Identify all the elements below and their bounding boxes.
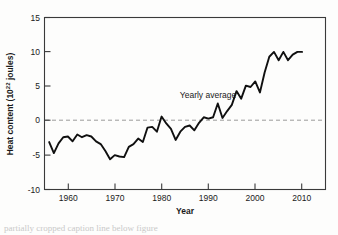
y-tick-label-5: 5 bbox=[35, 81, 40, 91]
y-tick-label-10: 10 bbox=[31, 47, 41, 57]
x-axis-title: Year bbox=[176, 206, 195, 216]
y-axis-tick-labels: -10 -5 0 5 10 15 bbox=[28, 13, 41, 195]
x-tick-label-1960: 1960 bbox=[59, 193, 78, 203]
y-axis-title-suffix: joules) bbox=[5, 53, 15, 83]
y-axis-title: Heat content (1022 joules) bbox=[5, 53, 15, 156]
x-tick-label-1970: 1970 bbox=[106, 193, 125, 203]
y-tick-label-minus5: -5 bbox=[32, 150, 40, 160]
y-tick-label-15: 15 bbox=[31, 13, 41, 23]
figure-container: -10 -5 0 5 10 15 1960 1970 1980 1990 200… bbox=[0, 0, 338, 235]
y-axis-title-prefix: Heat content (10 bbox=[5, 89, 15, 155]
annotation-yearly-average: Yearly average bbox=[180, 90, 237, 100]
ocean-heat-content-chart: -10 -5 0 5 10 15 1960 1970 1980 1990 200… bbox=[0, 0, 338, 235]
svg-text:Heat content (1022 joules): Heat content (1022 joules) bbox=[5, 53, 15, 156]
x-axis-tick-labels: 1960 1970 1980 1990 2000 2010 bbox=[59, 193, 312, 203]
caption-text: partially cropped caption line below fig… bbox=[0, 221, 338, 235]
x-tick-label-2000: 2000 bbox=[246, 193, 265, 203]
x-axis-ticks bbox=[68, 184, 301, 190]
x-tick-label-1990: 1990 bbox=[199, 193, 218, 203]
x-tick-label-1980: 1980 bbox=[152, 193, 171, 203]
y-axis-ticks bbox=[45, 18, 51, 190]
y-tick-label-0: 0 bbox=[35, 115, 40, 125]
caption-strip: partially cropped caption line below fig… bbox=[0, 221, 338, 235]
x-tick-label-2010: 2010 bbox=[292, 193, 311, 203]
yearly-average-line bbox=[49, 52, 302, 159]
y-tick-label-minus10: -10 bbox=[28, 185, 41, 195]
plot-frame bbox=[45, 18, 326, 190]
